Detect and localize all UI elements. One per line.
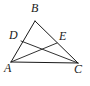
- segment-dc: [21, 41, 78, 63]
- geometry-figure: A B C D E: [0, 0, 90, 86]
- triangle-outline: [11, 21, 78, 63]
- point-label-b: B: [31, 2, 38, 14]
- segment-bc: [35, 21, 78, 63]
- point-label-a: A: [4, 62, 11, 74]
- point-label-d: D: [9, 29, 18, 41]
- point-label-e: E: [59, 30, 66, 42]
- segment-ac: [11, 62, 78, 63]
- point-label-c: C: [74, 63, 82, 75]
